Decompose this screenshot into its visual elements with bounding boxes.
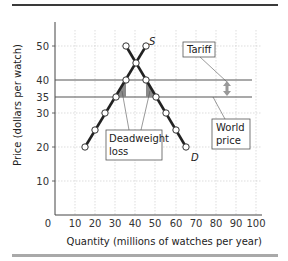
dwl-label-2: loss [109,146,128,157]
world-price-label-2: price [216,135,241,146]
x-tick-70: 70 [190,218,203,229]
supply-label: S [149,36,156,47]
dwl-label-1: Deadweight [109,133,169,144]
chart: S D Tariff World price Deadweight loss 5… [0,0,288,261]
demand-label: D [191,152,199,163]
x-tick-60: 60 [170,218,183,229]
x-axis-title: Quantity (millions of watches per year) [67,236,263,247]
x-tick-30: 30 [109,218,122,229]
tariff-label: Tariff [186,44,212,55]
bottom-rule [12,254,278,257]
x-tick-90: 90 [230,218,243,229]
x-tick-0: 0 [45,218,51,229]
world-price-label-1: World [216,122,245,133]
y-tick-20: 20 [36,142,49,153]
y-tick-35: 35 [36,92,49,103]
y-tick-40: 40 [36,75,49,86]
y-axis-title: Price (dollars per watch) [12,44,23,166]
x-tick-40: 40 [129,218,142,229]
y-tick-50: 50 [36,41,49,52]
tariff-arrow-icon [223,81,231,96]
x-tick-10: 10 [69,218,82,229]
y-tick-10: 10 [36,176,49,187]
x-tick-50: 50 [149,218,162,229]
x-tick-80: 80 [210,218,223,229]
world-price-leader [213,97,225,119]
x-tick-100: 100 [246,218,265,229]
x-tick-20: 20 [89,218,102,229]
tariff-leader [200,57,227,82]
y-tick-30: 30 [36,108,49,119]
